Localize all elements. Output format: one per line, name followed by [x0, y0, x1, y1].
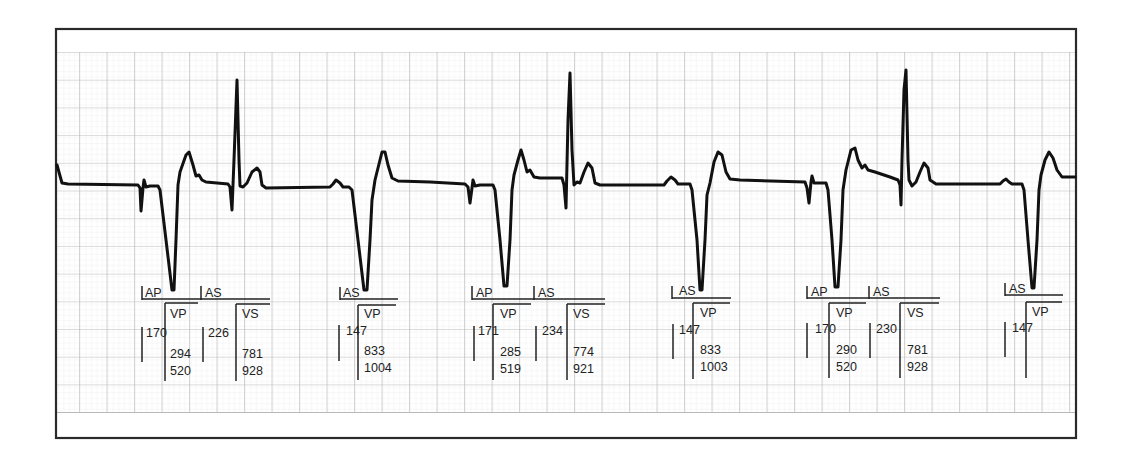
v-value-secondary-1: 774 — [573, 345, 594, 359]
av-interval-secondary: 226 — [208, 326, 229, 340]
atrial-marker: AP — [811, 285, 828, 299]
ventricular-marker: VP — [500, 307, 517, 321]
v-value-1: 294 — [170, 347, 191, 361]
v-value-secondary-1: 781 — [242, 347, 263, 361]
v-value-secondary-2: 928 — [907, 360, 928, 374]
ventricular-marker-secondary: VS — [907, 306, 924, 320]
v-value-2: 1004 — [364, 361, 392, 375]
v-value-1: 285 — [500, 345, 521, 359]
atrial-marker: AP — [476, 286, 493, 300]
v-value-secondary-1: 781 — [907, 343, 928, 357]
atrial-marker: AS — [343, 286, 360, 300]
ventricular-marker: VP — [170, 307, 187, 321]
atrial-marker-secondary: AS — [205, 286, 222, 300]
v-value-2: 519 — [500, 362, 521, 376]
ventricular-marker: VP — [1032, 305, 1049, 319]
atrial-marker: AP — [145, 286, 162, 300]
ventricular-marker-secondary: VS — [573, 307, 590, 321]
av-interval: 170 — [815, 322, 836, 336]
v-value-secondary-2: 928 — [242, 364, 263, 378]
av-interval: 170 — [146, 326, 167, 340]
v-value-2: 520 — [170, 364, 191, 378]
atrial-marker-secondary: AS — [538, 286, 555, 300]
ventricular-marker-secondary: VS — [242, 307, 259, 321]
ventricular-marker: VP — [836, 306, 853, 320]
av-interval: 147 — [1012, 321, 1033, 335]
av-interval: 147 — [679, 323, 700, 337]
v-value-1: 290 — [836, 343, 857, 357]
v-value-secondary-2: 921 — [573, 362, 594, 376]
av-interval-secondary: 230 — [876, 322, 897, 336]
ecg-grid — [57, 52, 1075, 413]
atrial-marker-secondary: AS — [873, 285, 890, 299]
ecg-strip: AP AS VP 170 294 520 VS 226 781 928 AS V… — [0, 0, 1129, 462]
v-value-2: 520 — [836, 360, 857, 374]
av-interval: 171 — [478, 324, 499, 338]
ventricular-marker: VP — [364, 307, 381, 321]
v-value-1: 833 — [364, 344, 385, 358]
v-value-1: 833 — [700, 343, 721, 357]
av-interval-secondary: 234 — [542, 324, 563, 338]
atrial-marker: AS — [1009, 282, 1026, 296]
ventricular-marker: VP — [700, 306, 717, 320]
av-interval: 147 — [346, 324, 367, 338]
v-value-2: 1003 — [700, 360, 728, 374]
atrial-marker: AS — [679, 284, 696, 298]
